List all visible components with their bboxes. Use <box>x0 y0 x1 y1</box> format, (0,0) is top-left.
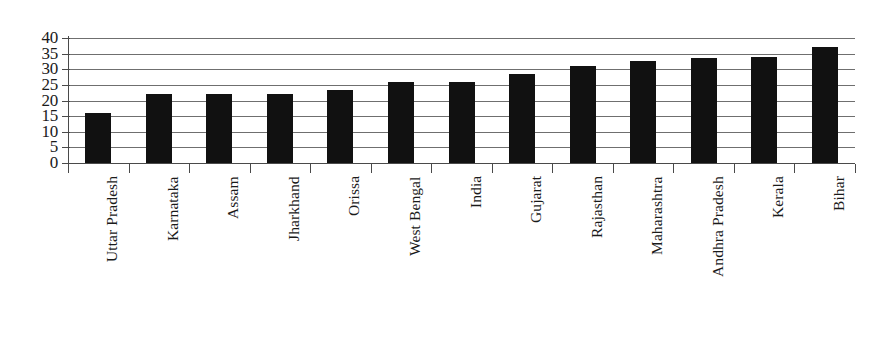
bar <box>570 66 596 163</box>
y-tick-label-25: 25 <box>28 76 58 93</box>
x-tick-label: Andhra Pradesh <box>710 176 726 277</box>
bar <box>267 94 293 163</box>
bar <box>206 94 232 163</box>
y-tick-label-5: 5 <box>28 138 58 155</box>
x-tick-mark <box>492 164 493 173</box>
bar <box>509 74 535 163</box>
x-tick-mark <box>189 164 190 173</box>
x-tick-mark <box>250 164 251 173</box>
x-tick-mark <box>613 164 614 173</box>
y-axis-labels: 0510152025303540 <box>22 0 58 340</box>
x-tick-mark <box>371 164 372 173</box>
bar <box>85 113 111 163</box>
x-tick-mark <box>673 164 674 173</box>
y-tick-label-30: 30 <box>28 60 58 77</box>
y-tick-label-40: 40 <box>28 29 58 46</box>
x-tick-label: Kerala <box>770 176 786 218</box>
y-tick-label-0: 0 <box>28 154 58 171</box>
x-tick-mark <box>855 164 856 173</box>
x-tick-label: Orissa <box>346 176 362 216</box>
x-tick-mark <box>129 164 130 173</box>
x-tick-label: Maharashtra <box>649 176 665 255</box>
bar <box>630 61 656 163</box>
x-tick-label: Uttar Pradesh <box>104 176 120 262</box>
bar <box>812 47 838 163</box>
x-tick-mark <box>552 164 553 173</box>
x-tick-label: India <box>468 176 484 208</box>
x-tick-mark <box>68 164 69 173</box>
y-tick-label-20: 20 <box>28 92 58 109</box>
bar <box>751 57 777 163</box>
x-tick-label: Rajasthan <box>589 176 605 238</box>
bar <box>388 82 414 163</box>
y-tick-label-15: 15 <box>28 107 58 124</box>
x-tick-label: Karnataka <box>165 176 181 241</box>
x-tick-mark <box>431 164 432 173</box>
y-tick-label-35: 35 <box>28 45 58 62</box>
x-tick-mark <box>310 164 311 173</box>
bar <box>691 58 717 163</box>
bar <box>146 94 172 163</box>
x-tick-label: Jharkhand <box>286 176 302 241</box>
bars-layer <box>68 0 855 340</box>
bar <box>449 82 475 163</box>
x-tick-label: Bihar <box>831 176 847 211</box>
x-tick-label: Assam <box>225 176 241 219</box>
y-tick-label-10: 10 <box>28 123 58 140</box>
x-tick-mark <box>794 164 795 173</box>
x-tick-mark <box>734 164 735 173</box>
bar <box>327 90 353 163</box>
bar-chart: 0510152025303540 Uttar PradeshKarnatakaA… <box>0 0 881 340</box>
x-tick-label: Gujarat <box>528 176 544 223</box>
x-tick-label: West Bengal <box>407 177 423 257</box>
